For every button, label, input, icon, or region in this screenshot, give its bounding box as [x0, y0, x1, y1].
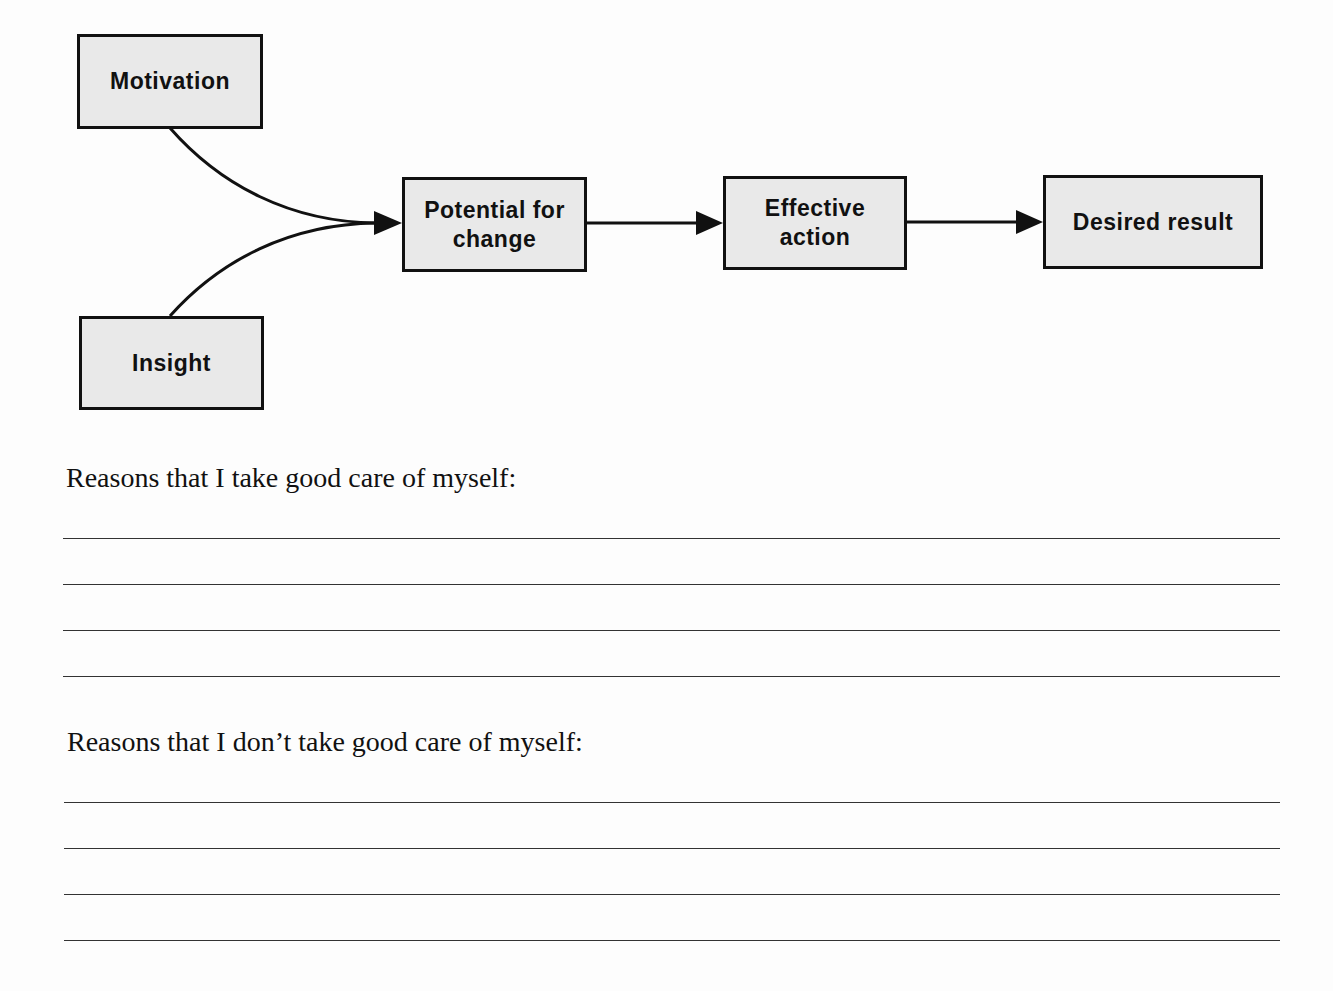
answer-line[interactable]: [63, 584, 1280, 585]
node-motivation: Motivation: [77, 34, 263, 129]
node-potential-for-change: Potential for change: [402, 177, 587, 272]
node-effective-action: Effective action: [723, 176, 907, 270]
node-label: Effective action: [765, 194, 865, 252]
node-desired-result: Desired result: [1043, 175, 1263, 269]
arrowhead-desired: [1016, 210, 1043, 234]
answer-line[interactable]: [63, 676, 1280, 677]
answer-line[interactable]: [64, 802, 1280, 803]
prompt-take-care: Reasons that I take good care of myself:: [66, 462, 516, 494]
worksheet-page: Motivation Insight Potential for change …: [0, 0, 1333, 991]
node-label: Desired result: [1073, 208, 1233, 237]
node-label: Potential for change: [424, 196, 565, 254]
arrowhead-effective: [696, 211, 723, 235]
answer-line[interactable]: [63, 630, 1280, 631]
arrow-insight-to-potential: [170, 223, 376, 316]
answer-line[interactable]: [64, 848, 1280, 849]
node-insight: Insight: [79, 316, 264, 410]
answer-line[interactable]: [63, 538, 1280, 539]
arrowhead-potential: [374, 211, 402, 235]
arrow-motivation-to-potential: [170, 128, 376, 223]
prompt-dont-take-care: Reasons that I don’t take good care of m…: [67, 726, 583, 758]
flow-arrows: [0, 0, 1333, 991]
answer-line[interactable]: [64, 894, 1280, 895]
node-label: Insight: [132, 349, 211, 378]
node-label: Motivation: [110, 67, 230, 96]
answer-line[interactable]: [64, 940, 1280, 941]
